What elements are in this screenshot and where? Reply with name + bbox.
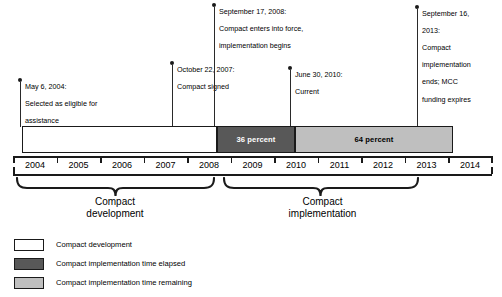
- annotation-2007-line1: October 22, 2007:: [177, 66, 272, 75]
- legend-item-elapsed: Compact implementation time elapsed: [14, 255, 192, 272]
- annotation-2013-line3: Compact: [422, 44, 500, 53]
- legend-item-remaining: Compact implementation time remaining: [14, 274, 192, 291]
- annotation-2004-line3: assistance: [25, 117, 130, 126]
- brace-label-dev-line1: Compact: [45, 196, 185, 208]
- legend-item-development: Compact development: [14, 236, 192, 253]
- axis-label-2014: 2014: [448, 160, 492, 170]
- annotation-2008-line2: Compact enters into force,: [219, 25, 344, 34]
- legend-label-remaining: Compact implementation time remaining: [56, 278, 192, 287]
- brace-label-dev-line2: development: [45, 208, 185, 220]
- axis-line-bottom: [13, 174, 492, 176]
- annotation-2004-line1: May 6, 2004:: [25, 83, 130, 92]
- annotation-leader-2013: [417, 9, 418, 127]
- axis-label-2012: 2012: [361, 160, 405, 170]
- bar-segment-remaining: 64 percent: [295, 126, 453, 153]
- axis-label-2008: 2008: [187, 160, 231, 170]
- axis-label-2007: 2007: [144, 160, 188, 170]
- axis-line-top: [13, 156, 492, 158]
- brace-label-compact-development: Compact development: [45, 196, 185, 220]
- annotation-2010-line1: June 30, 2010:: [295, 71, 375, 80]
- legend: Compact development Compact implementati…: [14, 236, 192, 293]
- annotation-2013-line5: ends; MCC: [422, 78, 500, 87]
- annotation-leader-2010: [290, 70, 291, 127]
- annotation-2010-line2: Current: [295, 88, 375, 97]
- bar-segment-elapsed-label: 36 percent: [237, 135, 276, 144]
- legend-swatch-development: [14, 239, 44, 251]
- axis-label-2010: 2010: [274, 160, 318, 170]
- annotation-2013: September 16, 2013: Compact implementati…: [422, 1, 500, 113]
- annotation-2013-line1: September 16,: [422, 10, 500, 19]
- axis-label-2004: 2004: [13, 160, 57, 170]
- brace-label-compact-implementation: Compact implementation: [250, 196, 395, 220]
- axis-label-2009: 2009: [231, 160, 275, 170]
- axis-label-2006: 2006: [100, 160, 144, 170]
- brace-label-impl-line1: Compact: [250, 196, 395, 208]
- legend-label-development: Compact development: [56, 240, 132, 249]
- bar-segment-development: [22, 126, 217, 153]
- annotation-2013-line4: implementation: [422, 61, 500, 70]
- annotation-2007: October 22, 2007: Compact signed: [177, 57, 272, 100]
- annotation-2010: June 30, 2010: Current: [295, 62, 375, 105]
- annotation-leader-2004: [20, 82, 21, 127]
- annotation-2007-line2: Compact signed: [177, 83, 272, 92]
- annotation-2008: September 17, 2008: Compact enters into …: [219, 0, 344, 59]
- bar-segment-remaining-label: 64 percent: [355, 135, 394, 144]
- legend-label-elapsed: Compact implementation time elapsed: [56, 259, 185, 268]
- annotation-2004-line2: Selected as eligible for: [25, 100, 130, 109]
- axis-label-2005: 2005: [57, 160, 101, 170]
- timeline-figure: May 6, 2004: Selected as eligible for as…: [0, 0, 502, 297]
- annotation-2008-line3: implementation begins: [219, 42, 344, 51]
- annotation-2008-line1: September 17, 2008:: [219, 8, 344, 17]
- annotation-leader-2008: [214, 7, 215, 127]
- axis-label-2013: 2013: [405, 160, 449, 170]
- bar-segment-elapsed: 36 percent: [217, 126, 295, 153]
- axis-label-2011: 2011: [318, 160, 362, 170]
- legend-swatch-remaining: [14, 277, 44, 289]
- annotation-2013-line2: 2013:: [422, 27, 500, 36]
- annotation-2013-line6: funding expires: [422, 96, 500, 105]
- brace-label-impl-line2: implementation: [250, 208, 395, 220]
- legend-swatch-elapsed: [14, 258, 44, 270]
- timeline-bar: 36 percent 64 percent: [22, 126, 453, 153]
